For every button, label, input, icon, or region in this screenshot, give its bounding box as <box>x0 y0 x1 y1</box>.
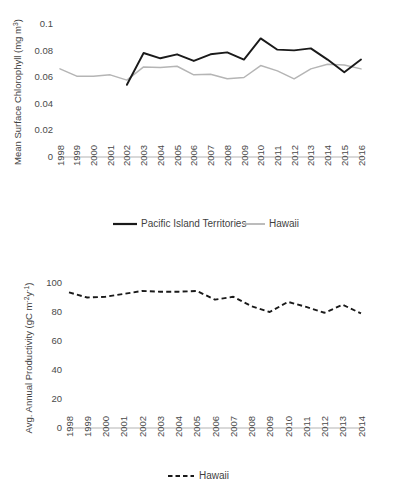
xtick-top-2011: 2011 <box>272 146 283 166</box>
ytick-top-1: 0.08 <box>35 45 54 56</box>
productivity-chart: Avg. Annual Productivity (gC m-2y-1) 100… <box>0 248 393 498</box>
y-axis-title-bottom-base: Avg. Annual Productivity (gC m <box>23 303 34 434</box>
ytick-bottom-2: 60 <box>51 335 62 346</box>
xtick-bottom-2005: 2005 <box>191 416 202 437</box>
xtick-bottom-2014: 2014 <box>356 416 367 437</box>
svg-text:Avg. Annual Productivity (gC m: Avg. Annual Productivity (gC m-2y-1) <box>23 283 35 434</box>
xtick-top-2003: 2003 <box>138 145 149 166</box>
xtick-top-2012: 2012 <box>289 145 300 166</box>
xtick-top-2015: 2015 <box>339 145 350 166</box>
xtick-bottom-1998: 1998 <box>64 416 75 437</box>
ytick-bottom-0: 100 <box>46 277 62 288</box>
legend-label-hawaii-bottom: Hawaii <box>199 470 229 481</box>
legend-label-pacific-island-territories: Pacific Island Territories <box>141 218 246 229</box>
xtick-top-2008: 2008 <box>222 145 233 166</box>
xtick-top-2002: 2002 <box>121 145 132 166</box>
xtick-bottom-2000: 2000 <box>100 416 111 437</box>
y-axis-ticks-bottom: 100 80 60 40 20 0 <box>46 277 62 433</box>
xtick-top-2013: 2013 <box>305 145 316 166</box>
x-axis-ticks-bottom: 1998199920002001200220032004200520062007… <box>64 416 367 437</box>
ytick-bottom-5: 0 <box>57 422 62 433</box>
ytick-top-0: 0.1 <box>40 18 53 29</box>
x-axis-ticks-top: 1998199920002001200220032004200520062007… <box>55 145 367 166</box>
legend-top: Pacific Island Territories Hawaii <box>113 218 299 229</box>
productivity-chart-svg: Avg. Annual Productivity (gC m-2y-1) 100… <box>0 248 393 498</box>
xtick-bottom-2007: 2007 <box>228 416 239 437</box>
xtick-top-2016: 2016 <box>356 145 367 166</box>
xtick-bottom-2010: 2010 <box>283 416 294 437</box>
chlorophyll-chart: Mean Surface Chlorophyll (mg m3) 0.1 0.0… <box>0 0 393 248</box>
y-axis-title-bottom-tail: ) <box>23 283 34 286</box>
xtick-bottom-2003: 2003 <box>155 416 166 437</box>
xtick-top-1998: 1998 <box>55 145 66 166</box>
xtick-top-2009: 2009 <box>239 145 250 166</box>
xtick-top-2000: 2000 <box>88 145 99 166</box>
ytick-top-5: 0 <box>48 151 53 162</box>
xtick-bottom-2012: 2012 <box>319 416 330 437</box>
legend-bottom: Hawaii <box>168 470 229 481</box>
y-axis-title-top: Mean Surface Chlorophyll (mg m3) <box>12 19 24 165</box>
xtick-top-1999: 1999 <box>71 145 82 166</box>
xtick-bottom-2004: 2004 <box>173 416 184 437</box>
ytick-top-2: 0.06 <box>35 71 54 82</box>
xtick-top-2005: 2005 <box>172 145 183 166</box>
ytick-top-3: 0.04 <box>35 98 54 109</box>
xtick-bottom-2009: 2009 <box>264 416 275 437</box>
series-line-hawaii-top <box>60 64 361 80</box>
chlorophyll-chart-svg: Mean Surface Chlorophyll (mg m3) 0.1 0.0… <box>0 0 393 248</box>
xtick-top-2014: 2014 <box>322 145 333 166</box>
series-line-hawaii-bottom <box>69 291 361 313</box>
xtick-bottom-2006: 2006 <box>210 416 221 437</box>
y-axis-title-top-tail: ) <box>12 19 23 22</box>
xtick-top-2004: 2004 <box>155 145 166 166</box>
y-axis-title-bottom: Avg. Annual Productivity (gC m-2y-1) <box>23 283 35 434</box>
xtick-bottom-2008: 2008 <box>246 416 257 437</box>
ytick-bottom-3: 40 <box>51 364 62 375</box>
xtick-top-2010: 2010 <box>255 145 266 166</box>
y-axis-ticks-top: 0.1 0.08 0.06 0.04 0.02 0 <box>35 18 54 162</box>
svg-text:Mean Surface Chlorophyll (mg m: Mean Surface Chlorophyll (mg m3) <box>12 19 24 165</box>
xtick-bottom-2011: 2011 <box>301 417 312 437</box>
ytick-bottom-1: 80 <box>51 306 62 317</box>
xtick-top-2007: 2007 <box>205 145 216 166</box>
xtick-bottom-2001: 2001 <box>118 416 129 437</box>
xtick-bottom-2002: 2002 <box>137 416 148 437</box>
xtick-bottom-1999: 1999 <box>82 416 93 437</box>
xtick-top-2006: 2006 <box>188 145 199 166</box>
xtick-top-2001: 2001 <box>105 145 116 166</box>
ytick-bottom-4: 20 <box>51 393 62 404</box>
xtick-bottom-2013: 2013 <box>337 416 348 437</box>
y-axis-title-top-base: Mean Surface Chlorophyll (mg m <box>12 26 23 165</box>
legend-label-hawaii-top: Hawaii <box>269 218 299 229</box>
ytick-top-4: 0.02 <box>35 124 54 135</box>
